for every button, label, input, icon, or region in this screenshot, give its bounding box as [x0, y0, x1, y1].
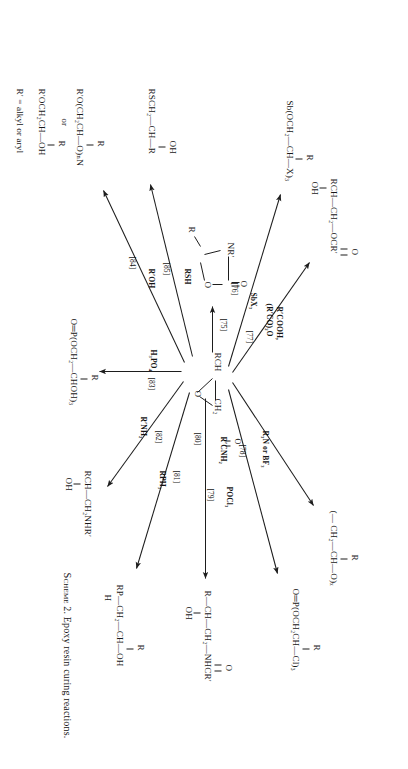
phosphate-r: R: [89, 374, 99, 380]
figure-page: RCH CH₂ O [75] NR′ O O R SbX₃: [0, 0, 408, 769]
ester-product-main: RCH—CH₂—OCR′: [328, 178, 338, 253]
reagent-81: RPH₃: [156, 470, 165, 489]
reagent-77-line1: R′COOH,: [273, 306, 282, 339]
polyether-r: R: [349, 554, 359, 560]
glycol-ether-main2: R′OCH₂CH—OH: [36, 88, 46, 155]
reagent-76: SbX₃: [247, 292, 256, 309]
epoxide-left-label: RCH: [212, 352, 222, 371]
oxazolidinone-r-label: R: [186, 226, 196, 232]
ref-78: [78]: [237, 444, 246, 457]
reagent-85: RSH: [181, 268, 190, 284]
amino-alcohol-oh-bond: [73, 483, 80, 484]
oxazolidinone-carbonyl-o: O: [238, 280, 248, 287]
phosphonium-r: R: [135, 644, 145, 650]
reagent-78: R₃N or BF₃: [259, 430, 268, 467]
epoxide-oxygen-label: O: [192, 390, 202, 397]
polyether-bond: [340, 558, 347, 559]
amide-oh-label: OH: [183, 606, 193, 619]
ref-84: [84]: [127, 256, 136, 269]
ester-oh-bond: [319, 187, 326, 188]
ref-77: [77]: [244, 330, 253, 343]
reagent-77-line2: (R′CO)₂O: [263, 303, 272, 336]
arrow-78: [232, 382, 313, 505]
glycol-ether-note: R′ = alkyl or aryl: [14, 88, 24, 153]
phosphate-main: O═P(OCH₂—CHOH)₃: [68, 318, 78, 405]
ref-82: [82]: [153, 430, 162, 443]
sb-product-r: R: [304, 154, 314, 160]
thioether-oh-bond: [158, 146, 165, 147]
reagent-84: R′OH: [145, 268, 154, 288]
ref-80: [80]: [192, 432, 201, 445]
ester-oh-label: OH: [309, 181, 319, 194]
scheme-canvas: RCH CH₂ O [75] NR′ O O R SbX₃: [0, 0, 408, 769]
ref-81: [81]: [171, 470, 180, 483]
pocl3-product-bond: [302, 648, 309, 649]
reagent-80-double-bond: [225, 440, 230, 446]
reagent-79: POCl₃: [223, 486, 232, 507]
glycol-ether-r2: R: [56, 140, 66, 146]
thioether-main: RSCH₂—CH—R: [146, 88, 156, 153]
oxazolidinone-ring-o: O: [202, 281, 212, 288]
ref-79: [79]: [205, 488, 214, 501]
ref-83: [83]: [146, 377, 155, 390]
sb-product-bond: [295, 158, 302, 159]
arrow-84: [103, 190, 184, 362]
ref-85: [85]: [161, 262, 170, 275]
reagent-82: R′NH₂: [137, 416, 146, 438]
arrow-79: [228, 389, 277, 573]
epoxide-right-label: CH₂: [212, 398, 222, 414]
amide-oh-bond: [193, 612, 200, 613]
pocl3-product-r: R: [311, 644, 321, 650]
glycol-ether-bond2: [47, 144, 54, 145]
amide-carbonyl-o: O: [223, 664, 233, 671]
amide-double-bond: [214, 664, 221, 671]
ref-76: [76]: [229, 282, 238, 295]
ester-carbonyl-o: O: [349, 248, 359, 255]
amide-product-main: R—CH—CH₂—NHCR′: [202, 590, 212, 681]
glycol-ether-main1: R′O(CH₂CH—O)ₙN: [74, 88, 84, 165]
oxazolidinone-n-label: NR′: [225, 242, 235, 257]
glycol-ether-r1: R: [95, 140, 105, 146]
thioether-oh: OH: [167, 140, 177, 153]
sb-product-main: Sb(OCH₂—CH—X)₃: [284, 100, 294, 181]
glycol-ether-or: or: [58, 118, 68, 125]
pocl3-product-main: O═P(OCH₂CH—Cl)₃: [290, 588, 300, 670]
phosphate-bond-r: [80, 378, 87, 379]
phosphonium-h: H: [102, 594, 112, 601]
amino-alcohol-oh: OH: [63, 477, 73, 490]
ref-75: [75]: [218, 318, 227, 331]
ester-double-bond: [340, 248, 347, 255]
caption-number: 2.: [61, 606, 72, 614]
phosphonium-main: RP—CH₂—CH—OH: [114, 584, 124, 666]
phosphonium-bond-r: [126, 648, 133, 649]
figure-caption: Scheme 2. Epoxy resin curing reactions.: [61, 572, 72, 738]
amino-alcohol-main: RCH—CH₂NHR′: [82, 470, 92, 537]
reagent-80-carbonyl-o: O: [231, 438, 240, 444]
reagent-83: H₃PO₄: [147, 349, 156, 371]
glycol-ether-bond1: [86, 144, 93, 145]
caption-text: Epoxy resin curing reactions.: [61, 616, 72, 738]
caption-label: Scheme: [61, 572, 72, 603]
polyether-main: (— CH₂—CH—O)ₓ: [328, 510, 338, 585]
